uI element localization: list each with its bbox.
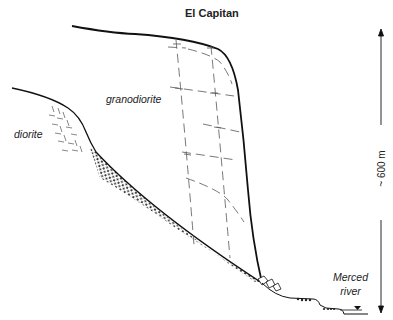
diorite-hatch bbox=[49, 106, 82, 152]
river-label-line2: river bbox=[333, 284, 368, 298]
merced-river-label: Merced river bbox=[333, 270, 368, 298]
height-scale-label: ~ 600 m bbox=[376, 150, 387, 186]
river-label-line1: Merced bbox=[333, 270, 368, 284]
cliff-profile-line bbox=[72, 26, 262, 283]
granodiorite-label: granodiorite bbox=[106, 93, 161, 105]
joint-ticks bbox=[173, 44, 221, 155]
left-profile-line bbox=[12, 88, 262, 283]
talus-deposit bbox=[90, 148, 262, 282]
diorite-label: diorite bbox=[14, 128, 43, 140]
rockfall-blocks bbox=[258, 276, 281, 291]
diagram-title: El Capitan bbox=[185, 7, 239, 19]
water-level-icon bbox=[354, 306, 361, 310]
